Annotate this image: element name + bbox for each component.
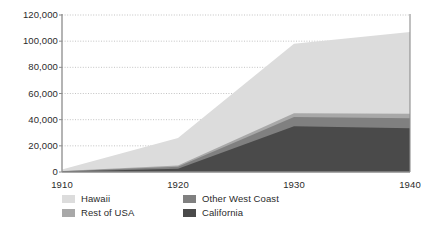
y-tick-label-60000: 60,000: [2, 89, 58, 99]
legend-swatch-rest-of-usa-icon: [62, 209, 75, 217]
y-tick-label-100000: 100,000: [2, 36, 58, 46]
legend-item-california[interactable]: California: [183, 207, 243, 218]
legend-swatch-hawaii-icon: [62, 195, 75, 203]
x-tick-label-1940: 1940: [399, 180, 421, 190]
x-tick-label-1920: 1920: [167, 180, 189, 190]
legend-label-hawaii: Hawaii: [81, 194, 110, 204]
stacked-area-chart: 020,00040,00060,00080,000100,000120,000 …: [0, 0, 434, 190]
y-tick-label-20000: 20,000: [2, 141, 58, 151]
y-tick-label-120000: 120,000: [2, 10, 58, 20]
legend-item-other-west-coast[interactable]: Other West Coast: [183, 193, 279, 204]
y-tick-label-80000: 80,000: [2, 62, 58, 72]
legend-item-rest-of-usa[interactable]: Rest of USA: [62, 207, 134, 218]
legend-label-rest-of-usa: Rest of USA: [81, 208, 134, 218]
legend-item-hawaii[interactable]: Hawaii: [62, 193, 110, 204]
y-tick-label-40000: 40,000: [2, 115, 58, 125]
chart-plot-svg: [0, 0, 434, 190]
chart-page: 020,00040,00060,00080,000100,000120,000 …: [0, 0, 434, 230]
legend-swatch-california-icon: [183, 209, 196, 217]
x-tick-label-1930: 1930: [283, 180, 305, 190]
x-axis-tick-labels: 1910192019301940: [0, 174, 434, 190]
chart-legend: HawaiiRest of USAOther West CoastCalifor…: [0, 193, 434, 227]
area-bands-group: [62, 32, 410, 172]
x-tick-label-1910: 1910: [51, 180, 73, 190]
y-axis-tick-labels: 020,00040,00060,00080,000100,000120,000: [0, 0, 58, 190]
legend-label-other-west-coast: Other West Coast: [202, 194, 279, 204]
legend-swatch-other-west-coast-icon: [183, 195, 196, 203]
legend-label-california: California: [202, 208, 243, 218]
